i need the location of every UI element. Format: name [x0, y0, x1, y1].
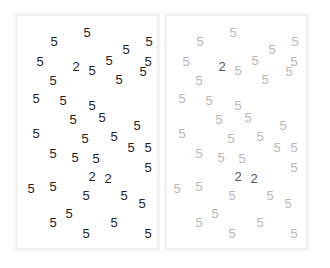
distractor-digit-5: 5 — [71, 151, 78, 164]
distractor-digit-5: 5 — [92, 152, 99, 165]
distractor-digit-5: 5 — [120, 189, 127, 202]
distractor-digit-5: 5 — [234, 99, 241, 112]
distractor-digit-5: 5 — [195, 216, 202, 229]
target-digit-2: 2 — [88, 170, 95, 183]
distractor-digit-5: 5 — [178, 127, 185, 140]
distractor-digit-5: 5 — [238, 152, 245, 165]
distractor-digit-5: 5 — [173, 182, 180, 195]
distractor-digit-5: 5 — [49, 74, 56, 87]
target-digit-2: 2 — [234, 170, 241, 183]
distractor-digit-5: 5 — [290, 227, 297, 240]
distractor-digit-5: 5 — [261, 73, 268, 86]
distractor-digit-5: 5 — [32, 127, 39, 140]
distractor-digit-5: 5 — [279, 119, 286, 132]
distractor-digit-5: 5 — [144, 161, 151, 174]
distractor-digit-5: 5 — [256, 216, 263, 229]
distractor-digit-5: 5 — [88, 64, 95, 77]
distractor-digit-5: 5 — [196, 35, 203, 48]
distractor-digit-5: 5 — [49, 216, 56, 229]
distractor-digit-5: 5 — [251, 54, 258, 67]
distractor-digit-5: 5 — [215, 113, 222, 126]
distractor-digit-5: 5 — [36, 55, 43, 68]
distractor-digit-5: 5 — [195, 147, 202, 160]
distractor-digit-5: 5 — [234, 64, 241, 77]
stimulus-panel-left: 555555525555555555555555555225555555555 — [15, 13, 160, 251]
distractor-digit-5: 5 — [110, 216, 117, 229]
distractor-digit-5: 5 — [82, 189, 89, 202]
distractor-digit-5: 5 — [59, 94, 66, 107]
distractor-digit-5: 5 — [229, 26, 236, 39]
target-digit-2: 2 — [104, 172, 111, 185]
distractor-digit-5: 5 — [145, 35, 152, 48]
distractor-digit-5: 5 — [122, 43, 129, 56]
distractor-digit-5: 5 — [195, 74, 202, 87]
distractor-digit-5: 5 — [49, 180, 56, 193]
distractor-digit-5: 5 — [49, 147, 56, 160]
distractor-digit-5: 5 — [205, 94, 212, 107]
target-digit-2: 2 — [250, 172, 257, 185]
stimulus-panel-right: 555555525555555555555555555225555555555 — [164, 13, 309, 251]
distractor-digit-5: 5 — [273, 141, 280, 154]
distractor-digit-5: 5 — [105, 54, 112, 67]
distractor-digit-5: 5 — [69, 113, 76, 126]
distractor-digit-5: 5 — [217, 151, 224, 164]
distractor-digit-5: 5 — [81, 132, 88, 145]
distractor-digit-5: 5 — [268, 43, 275, 56]
distractor-digit-5: 5 — [182, 55, 189, 68]
distractor-digit-5: 5 — [115, 73, 122, 86]
distractor-digit-5: 5 — [266, 189, 273, 202]
distractor-digit-5: 5 — [291, 35, 298, 48]
distractor-digit-5: 5 — [88, 99, 95, 112]
distractor-digit-5: 5 — [290, 161, 297, 174]
distractor-digit-5: 5 — [256, 130, 263, 143]
distractor-digit-5: 5 — [98, 111, 105, 124]
distractor-digit-5: 5 — [50, 35, 57, 48]
target-digit-2: 2 — [72, 60, 79, 73]
distractor-digit-5: 5 — [139, 65, 146, 78]
target-digit-2: 2 — [218, 60, 225, 73]
distractor-digit-5: 5 — [82, 227, 89, 240]
distractor-digit-5: 5 — [133, 119, 140, 132]
distractor-digit-5: 5 — [290, 141, 297, 154]
distractor-digit-5: 5 — [228, 227, 235, 240]
distractor-digit-5: 5 — [138, 197, 145, 210]
distractor-digit-5: 5 — [83, 26, 90, 39]
distractor-digit-5: 5 — [178, 92, 185, 105]
distractor-digit-5: 5 — [195, 180, 202, 193]
distractor-digit-5: 5 — [228, 189, 235, 202]
distractor-digit-5: 5 — [211, 207, 218, 220]
distractor-digit-5: 5 — [284, 197, 291, 210]
distractor-digit-5: 5 — [144, 141, 151, 154]
distractor-digit-5: 5 — [32, 92, 39, 105]
distractor-digit-5: 5 — [65, 207, 72, 220]
distractor-digit-5: 5 — [27, 182, 34, 195]
distractor-digit-5: 5 — [244, 111, 251, 124]
distractor-digit-5: 5 — [110, 130, 117, 143]
distractor-digit-5: 5 — [144, 227, 151, 240]
distractor-digit-5: 5 — [127, 141, 134, 154]
distractor-digit-5: 5 — [285, 65, 292, 78]
distractor-digit-5: 5 — [227, 132, 234, 145]
